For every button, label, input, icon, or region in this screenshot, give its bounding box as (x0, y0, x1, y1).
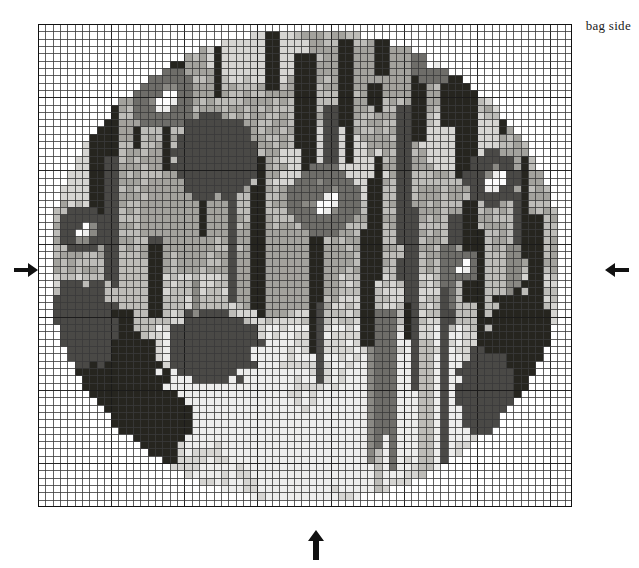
center-arrow-left-icon (14, 258, 38, 282)
page-title: bag side (586, 18, 631, 34)
pattern-canvas[interactable] (38, 24, 572, 507)
pattern-grid[interactable] (38, 24, 572, 507)
center-arrow-bottom-icon (304, 530, 328, 560)
center-arrow-right-icon (605, 258, 629, 282)
needlepoint-chart: bag side (0, 0, 639, 568)
